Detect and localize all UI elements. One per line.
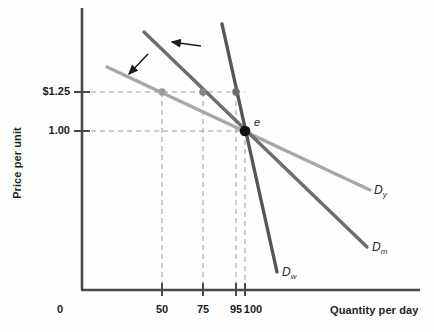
shift-arrows [129,42,201,74]
curve-label-dw: Dw [282,265,296,281]
curve-label-dw-text: D [282,265,291,279]
chart-canvas [0,0,434,332]
curve-label-dw-sub: w [291,272,297,281]
y-axis-title: Price per unit [11,103,23,223]
origin-label: 0 [48,303,72,315]
equilibrium-label: e [254,116,260,128]
x-tick-label-75: 75 [187,303,219,315]
x-tick-label-100: 100 [234,303,272,315]
y-tick-label-100: 1.00 [18,124,70,136]
x-tick-label-50: 50 [146,303,178,315]
curve-label-dm-sub: m [381,247,388,256]
axes [74,8,420,296]
shift-arrow-inner [129,54,148,74]
marker-dy-50 [158,88,165,95]
demand-curve-dm [144,32,367,247]
marker-dm-75 [199,88,206,95]
curve-label-dy: Dy [374,183,387,199]
curve-label-dy-sub: y [383,190,387,199]
curve-label-dm: Dm [372,240,387,256]
equilibrium-point [240,126,251,137]
y-tick-label-125: $1.25 [18,85,70,97]
demand-curve-dw [222,24,277,272]
shift-arrow-outer [172,42,201,46]
curve-label-dy-text: D [374,183,383,197]
marker-dw-95 [232,88,239,95]
demand-curve-figure: Price per unit Quantity per day $1.25 1.… [0,0,434,332]
x-axis-title: Quantity per day [330,304,418,316]
demand-curve-dy [107,67,370,190]
curve-label-dm-text: D [372,240,381,254]
